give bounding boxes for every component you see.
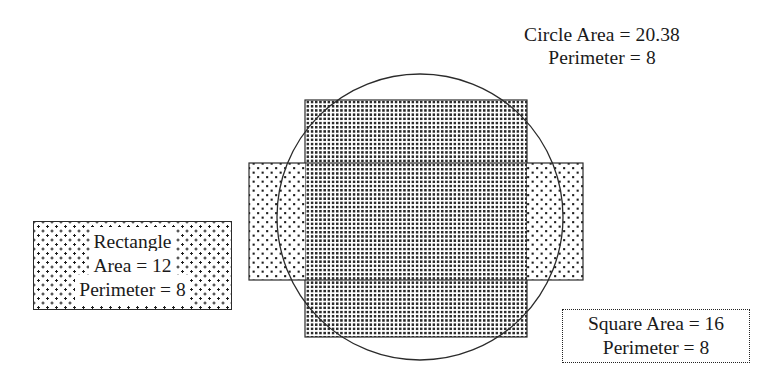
square-shape bbox=[305, 100, 527, 337]
square-label: Square Area = 16 Perimeter = 8 bbox=[562, 309, 750, 363]
figure-canvas: Circle Area = 20.38 Perimeter = 8 Rectan… bbox=[0, 0, 767, 384]
circle-label-line-1: Circle Area = 20.38 bbox=[487, 23, 717, 46]
circle-label-line-2: Perimeter = 8 bbox=[487, 46, 717, 69]
square-label-line-2: Perimeter = 8 bbox=[603, 336, 709, 360]
rectangle-label: Rectangle Area = 12 Perimeter = 8 bbox=[33, 221, 232, 310]
square-label-line-1: Square Area = 16 bbox=[588, 312, 724, 336]
circle-label: Circle Area = 20.38 Perimeter = 8 bbox=[487, 23, 717, 69]
rectangle-label-line-2: Area = 12 bbox=[92, 254, 172, 278]
rectangle-label-line-1: Rectangle bbox=[93, 230, 173, 254]
rectangle-label-line-3: Perimeter = 8 bbox=[78, 278, 186, 302]
